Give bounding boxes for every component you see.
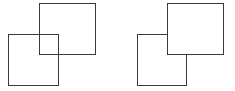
square-top-right-front	[167, 3, 224, 55]
square-bottom-left-outline	[8, 34, 59, 86]
